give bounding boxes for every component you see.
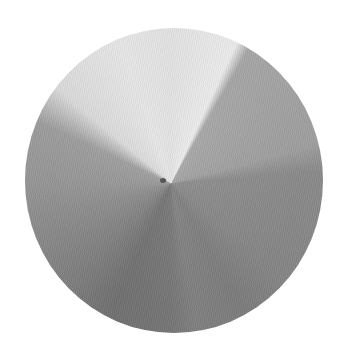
disc-center-point xyxy=(160,178,166,183)
paper-texture xyxy=(25,28,323,333)
